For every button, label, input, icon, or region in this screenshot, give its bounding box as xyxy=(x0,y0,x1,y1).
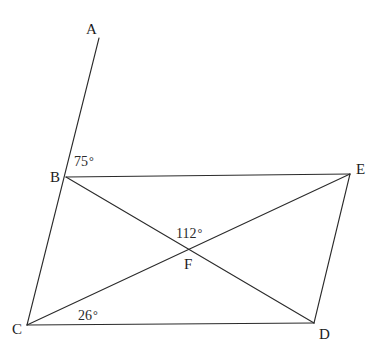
degree-icon-at-b: ° xyxy=(88,154,94,168)
vertex-label-c: C xyxy=(12,322,22,337)
diagonal-B-D xyxy=(66,177,314,323)
angle-value-at-c: 26 xyxy=(78,308,92,323)
degree-icon-at-f: ° xyxy=(196,226,202,240)
vertex-label-a: A xyxy=(86,22,97,37)
vertex-label-e: E xyxy=(356,162,365,177)
angle-label-at-b: 75° xyxy=(74,155,94,169)
angle-value-at-f: 112 xyxy=(176,226,196,241)
angle-label-at-f: 112° xyxy=(176,227,202,241)
segment-E-D xyxy=(314,174,350,323)
vertex-label-f: F xyxy=(184,257,193,272)
segment-B-E xyxy=(66,174,350,177)
vertex-label-b: B xyxy=(50,170,60,185)
segment-C-D xyxy=(27,323,314,325)
segments-group xyxy=(27,38,350,325)
angle-label-at-c: 26° xyxy=(78,309,98,323)
angle-value-at-b: 75 xyxy=(74,154,88,169)
geometry-figure: A B C D E F 75° 112° 26° xyxy=(0,0,389,356)
degree-icon-at-c: ° xyxy=(92,308,98,322)
vertex-label-d: D xyxy=(319,327,330,342)
diagonal-C-E xyxy=(27,174,350,325)
segment-A-C xyxy=(27,38,99,325)
